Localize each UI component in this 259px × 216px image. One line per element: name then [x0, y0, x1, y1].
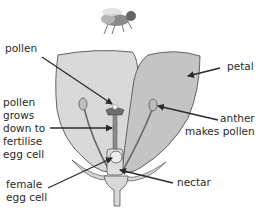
label-anther: anther makes pollen — [185, 112, 255, 138]
bee-icon — [101, 8, 136, 34]
anther-left — [79, 98, 87, 110]
flower-pollination-diagram: pollen pollen grows down to fertilise eg… — [0, 0, 259, 216]
style — [113, 115, 117, 150]
receptacle-stalk — [104, 176, 128, 206]
label-nectar: nectar — [177, 176, 211, 189]
label-female-egg-cell: female egg cell — [6, 178, 47, 204]
anther-right — [149, 99, 157, 111]
arrow-egg-cell — [48, 158, 112, 188]
label-pollen-tube: pollen grows down to fertilise egg cell — [3, 96, 45, 161]
label-pollen: pollen — [5, 42, 37, 55]
label-petal: petal — [227, 60, 254, 73]
pollen-grain — [113, 105, 118, 110]
egg-cell — [110, 151, 122, 163]
